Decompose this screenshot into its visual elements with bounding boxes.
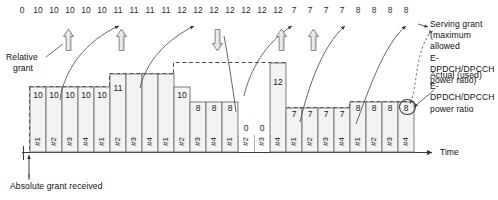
bar-value-label: 8 xyxy=(382,103,398,113)
tti-label: #2 xyxy=(366,132,382,151)
tti-label: #4 xyxy=(142,132,158,151)
tti-label: #3 xyxy=(382,132,398,151)
time-axis-label: Time xyxy=(440,147,459,157)
serving-grant-value: 10 xyxy=(78,5,94,15)
bar-value-label: 10 xyxy=(46,90,62,100)
serving-grant-value: 7 xyxy=(318,5,334,15)
serving-grant-value: 12 xyxy=(238,5,254,15)
bar-value-label: 7 xyxy=(318,109,334,119)
relative-grant-up-arrows xyxy=(64,29,319,51)
bar-value-label: 10 xyxy=(30,90,46,100)
tti-label: #2 xyxy=(302,132,318,151)
serving-grant-value: 8 xyxy=(350,5,366,15)
actual-used-description: Actual (used) E-DPDCH/DPCCH power ratio xyxy=(430,70,498,115)
serving-grant-value: 8 xyxy=(382,5,398,15)
tti-label: #4 xyxy=(398,132,414,151)
serving-grant-value: 12 xyxy=(174,5,190,15)
relative-grant-label: Relative grant xyxy=(6,52,52,74)
serving-grant-value: 12 xyxy=(222,5,238,15)
bar-value-label: 7 xyxy=(286,109,302,119)
block-arrow-up-icon xyxy=(309,29,319,51)
tti-label: #3 xyxy=(62,132,78,151)
serving-grant-leader xyxy=(418,24,428,27)
tti-label: #3 xyxy=(126,132,142,151)
serving-grant-value: 10 xyxy=(62,5,78,15)
actual-vs-serving-connector xyxy=(410,34,429,104)
actual-used-line3: power ratio xyxy=(430,104,498,115)
serving-grant-value: 11 xyxy=(142,5,158,15)
actual-used-line2: E-DPDCH/DPCCH xyxy=(430,81,498,103)
bar-value-label: 8 xyxy=(206,103,222,113)
tti-label: #2 xyxy=(110,132,126,151)
tti-label: #1 xyxy=(30,132,46,151)
bar-value-label: 8 xyxy=(366,103,382,113)
tti-label: #4 xyxy=(270,132,286,151)
serving-grant-line1: Serving grant xyxy=(430,19,498,30)
serving-grant-value: 11 xyxy=(158,5,174,15)
tti-label: #3 xyxy=(254,132,270,151)
bar-value-label: 10 xyxy=(174,90,190,100)
tti-label: #1 xyxy=(222,132,238,151)
bar-value-label: 11 xyxy=(110,83,126,93)
serving-grant-value: 7 xyxy=(302,5,318,15)
tti-label: #3 xyxy=(318,132,334,151)
relative-grant-label-line2: grant xyxy=(13,63,52,74)
block-arrow-up-icon xyxy=(117,29,127,51)
tti-label: #2 xyxy=(238,132,254,151)
serving-grant-value: 11 xyxy=(126,5,142,15)
bar-value-label: 10 xyxy=(94,90,110,100)
tti-label: #4 xyxy=(206,132,222,151)
figure-canvas: 0101010101011111111121212121212127777888… xyxy=(0,0,498,200)
serving-grant-value: 11 xyxy=(110,5,126,15)
diagram-vector-layer xyxy=(0,0,498,200)
serving-grant-value: 0 xyxy=(14,5,30,15)
bar-value-label: 8 xyxy=(350,103,366,113)
serving-grant-value: 10 xyxy=(30,5,46,15)
bar-value-label: 8 xyxy=(398,103,414,113)
serving-grant-value: 7 xyxy=(286,5,302,15)
tti-label: #4 xyxy=(334,132,350,151)
serving-grant-value: 12 xyxy=(190,5,206,15)
tti-label: #3 xyxy=(190,132,206,151)
tti-label: #1 xyxy=(350,132,366,151)
serving-grant-line2: (maximum allowed xyxy=(430,30,498,52)
tti-label: #2 xyxy=(174,132,190,151)
block-arrow-up-icon xyxy=(64,29,74,51)
bar-value-label: 7 xyxy=(334,109,350,119)
bar-value-label: 12 xyxy=(270,77,286,87)
bar-value-label: 7 xyxy=(302,109,318,119)
serving-grant-value: 12 xyxy=(206,5,222,15)
bar-value-label: 8 xyxy=(190,103,206,113)
absolute-grant-label: Absolute grant received xyxy=(10,181,103,192)
relative-grant-label-line1: Relative xyxy=(6,52,52,63)
bar-value-label: 10 xyxy=(62,90,78,100)
serving-grant-value: 10 xyxy=(94,5,110,15)
tti-label: #1 xyxy=(94,132,110,151)
tti-label: #4 xyxy=(78,132,94,151)
tti-label: #1 xyxy=(286,132,302,151)
tti-label: #1 xyxy=(158,132,174,151)
bar-value-label: 10 xyxy=(78,90,94,100)
tti-label: #2 xyxy=(46,132,62,151)
serving-grant-value: 8 xyxy=(398,5,414,15)
serving-grant-value: 7 xyxy=(334,5,350,15)
bar-value-label: 8 xyxy=(222,103,238,113)
serving-grant-value: 12 xyxy=(254,5,270,15)
block-arrow-down-icon xyxy=(213,30,223,52)
serving-grant-value: 8 xyxy=(366,5,382,15)
block-arrow-up-icon xyxy=(277,29,287,51)
serving-grant-value: 10 xyxy=(46,5,62,15)
serving-grant-value: 12 xyxy=(270,5,286,15)
actual-used-line1: Actual (used) xyxy=(430,70,498,81)
